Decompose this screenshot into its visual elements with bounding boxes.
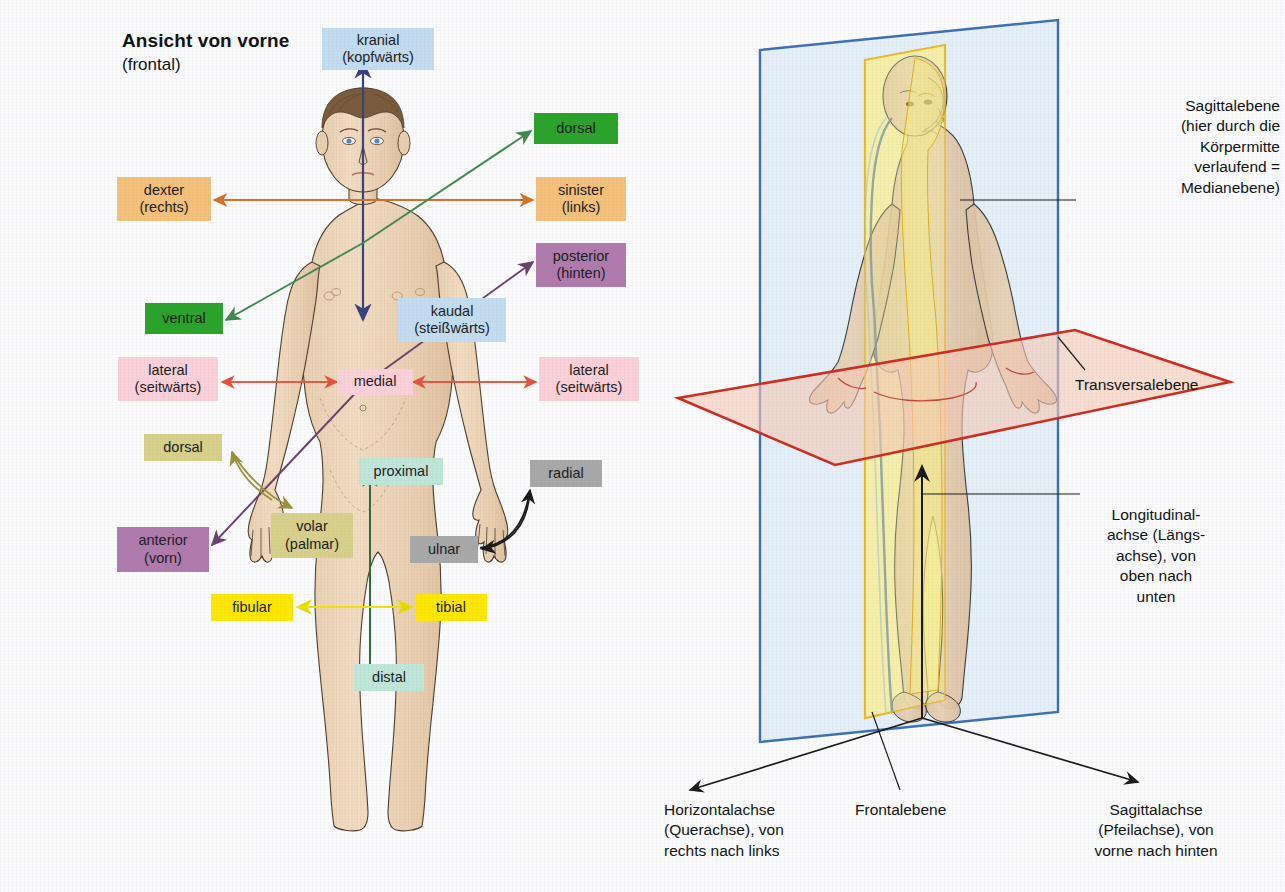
label-line-1: anterior bbox=[138, 532, 187, 549]
annotation-horizontalachse: Horizontalachse (Querachse), von rechts … bbox=[664, 800, 854, 861]
annotation-longitudinalachse: Longitudinal- achse (Längs- achse), von … bbox=[1076, 505, 1236, 607]
label-line-2: (kopfwärts) bbox=[342, 49, 414, 66]
page-title: Ansicht von vorne (frontal) bbox=[122, 30, 289, 75]
label-line-1: dexter bbox=[144, 182, 184, 199]
right-panel-planes-axes: Sagittalebene (hier durch die Körpermitt… bbox=[660, 0, 1285, 892]
label-dorsal_hand: dorsal bbox=[144, 434, 222, 461]
label-dorsal_top: dorsal bbox=[534, 113, 618, 144]
label-line-1: distal bbox=[372, 669, 406, 686]
label-line-2: (hinten) bbox=[556, 265, 605, 282]
annotation-sagittalachse: Sagittalachse (Pfeilachse), von vorne na… bbox=[1056, 800, 1256, 861]
label-ventral: ventral bbox=[145, 303, 223, 334]
label-line-1: sinister bbox=[558, 182, 604, 199]
label-line-1: fibular bbox=[232, 599, 272, 616]
label-line-1: ventral bbox=[162, 310, 206, 327]
label-distal: distal bbox=[354, 664, 424, 691]
left-panel-frontal-view: Ansicht von vorne (frontal) bbox=[0, 0, 660, 892]
label-tibial: tibial bbox=[415, 594, 487, 621]
label-line-1: ulnar bbox=[428, 541, 460, 558]
label-anterior: anterior(vorn) bbox=[117, 527, 209, 572]
label-line-1: lateral bbox=[569, 362, 609, 379]
label-medial: medial bbox=[337, 369, 413, 395]
annotation-frontalebene: Frontalebene bbox=[855, 800, 985, 820]
label-line-2: (vorn) bbox=[144, 550, 182, 567]
label-kranial: kranial(kopfwärts) bbox=[322, 28, 434, 70]
anatomy-diagram-page: Ansicht von vorne (frontal) bbox=[0, 0, 1285, 892]
label-ulnar: ulnar bbox=[410, 536, 478, 563]
label-kaudal: kaudal(steißwärts) bbox=[398, 298, 506, 342]
annotation-sagittalebene: Sagittalebene (hier durch die Körpermitt… bbox=[1070, 96, 1280, 198]
label-line-2: (rechts) bbox=[139, 199, 188, 216]
label-posterior: posterior(hinten) bbox=[536, 243, 626, 287]
label-sinister: sinister(links) bbox=[536, 177, 626, 221]
label-radial: radial bbox=[530, 460, 602, 487]
label-volar: volar(palmar) bbox=[271, 513, 353, 558]
sagittal-axis-arrow bbox=[922, 718, 1138, 782]
label-line-1: kaudal bbox=[431, 303, 474, 320]
annotation-transversalebene: Transversalebene bbox=[1075, 375, 1270, 395]
label-line-1: lateral bbox=[148, 362, 188, 379]
label-line-2: (steißwärts) bbox=[414, 320, 490, 337]
label-line-2: (seitwärts) bbox=[135, 379, 202, 396]
label-line-2: (palmar) bbox=[285, 536, 339, 553]
label-line-1: radial bbox=[548, 465, 583, 482]
label-line-2: (links) bbox=[562, 199, 601, 216]
label-line-1: dorsal bbox=[163, 439, 203, 456]
label-lateral_l: lateral(seitwärts) bbox=[118, 357, 218, 401]
label-proximal: proximal bbox=[359, 458, 443, 485]
heading-subtitle: (frontal) bbox=[122, 55, 289, 75]
label-line-1: tibial bbox=[436, 599, 466, 616]
label-line-1: proximal bbox=[374, 463, 429, 480]
label-lateral_r: lateral(seitwärts) bbox=[539, 357, 639, 401]
label-fibular: fibular bbox=[211, 594, 293, 621]
label-line-1: kranial bbox=[357, 32, 400, 49]
label-line-1: dorsal bbox=[556, 120, 596, 137]
label-line-2: (seitwärts) bbox=[556, 379, 623, 396]
label-dexter: dexter(rechts) bbox=[117, 177, 211, 221]
label-line-1: medial bbox=[354, 373, 397, 390]
label-line-1: volar bbox=[296, 518, 327, 535]
label-line-1: posterior bbox=[553, 248, 609, 265]
heading-title: Ansicht von vorne bbox=[122, 30, 289, 52]
